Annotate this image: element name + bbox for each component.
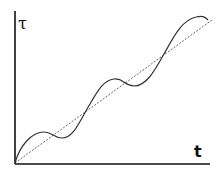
x-axis-label: t [194,142,202,161]
y-axis-label: τ [18,14,27,33]
chart [0,0,224,175]
linear-trend-line [15,20,212,163]
oscillating-curve [15,16,208,163]
